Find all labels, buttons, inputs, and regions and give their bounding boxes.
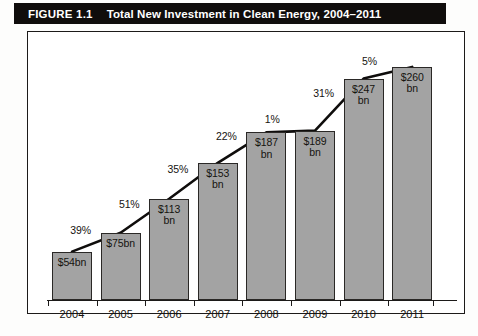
bar-value-label: $113 bn (158, 204, 180, 227)
bar-value-label: $189 bn (304, 136, 327, 159)
bar-value-label: $247 bn (352, 84, 375, 107)
x-tick (291, 300, 292, 306)
x-tick (145, 300, 146, 306)
bar-value-label: $187 bn (255, 137, 278, 160)
x-tick (97, 300, 98, 306)
figure-number-label: FIGURE 1.1 (28, 8, 93, 20)
figure-container: FIGURE 1.1 Total New Investment in Clean… (0, 0, 478, 336)
x-tick-label-2004: 2004 (60, 308, 85, 320)
x-tick (194, 300, 195, 306)
bar-2009: $189 bn (295, 131, 335, 300)
bar-2006: $113 bn (149, 199, 189, 300)
chart-plot-area: $54bn$75bn$113 bn$153 bn$187 bn$189 bn$2… (27, 31, 465, 314)
page-title: Total New Investment in Clean Energy, 20… (107, 8, 382, 20)
x-tick-label-2008: 2008 (254, 308, 279, 320)
bar-2005: $75bn (101, 233, 141, 300)
growth-label-2006→2007: 35% (168, 163, 189, 175)
x-tick (242, 300, 243, 306)
growth-label-2007→2008: 22% (216, 130, 237, 142)
x-tick (48, 300, 49, 306)
x-axis-line (47, 300, 457, 301)
x-tick (340, 300, 341, 306)
growth-label-2010→2011: 5% (362, 55, 377, 67)
x-tick (388, 300, 389, 306)
figure-title-banner: FIGURE 1.1 Total New Investment in Clean… (14, 3, 446, 24)
growth-label-2005→2006: 51% (119, 198, 140, 210)
growth-label-2004→2005: 39% (70, 224, 91, 236)
bar-2007: $153 bn (198, 163, 238, 300)
bar-2004: $54bn (52, 252, 92, 300)
x-tick-label-2010: 2010 (351, 308, 376, 320)
x-tick-label-2006: 2006 (157, 308, 182, 320)
bar-2010: $247 bn (344, 79, 384, 300)
x-tick-label-2009: 2009 (303, 308, 328, 320)
x-tick-label-2011: 2011 (400, 308, 424, 320)
bar-2008: $187 bn (246, 132, 286, 300)
bar-2011: $260 bn (392, 67, 432, 300)
x-tick-label-2007: 2007 (205, 308, 230, 320)
bar-value-label: $54bn (58, 257, 87, 269)
bar-value-label: $260 bn (401, 72, 424, 95)
x-tick-label-2005: 2005 (108, 308, 133, 320)
growth-label-2009→2010: 31% (313, 87, 334, 99)
bar-value-label: $75bn (106, 238, 135, 250)
growth-label-2008→2009: 1% (265, 113, 280, 125)
x-tick (433, 300, 434, 306)
bar-value-label: $153 bn (206, 168, 229, 191)
